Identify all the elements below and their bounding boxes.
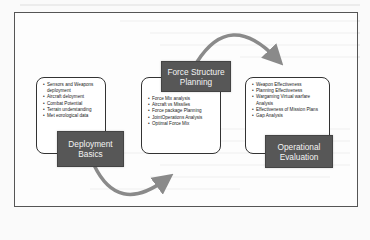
title-line: Deployment <box>68 139 112 149</box>
list-item: Met eorological data <box>43 113 101 119</box>
title-line: Operational <box>278 142 321 152</box>
title-line: Planning <box>180 77 212 87</box>
title-line: Basics <box>78 149 102 159</box>
title-line: Force Structure <box>167 67 224 77</box>
stage-items-list: Sensors and Weapons deployment Aircraft … <box>37 78 105 119</box>
list-item: Gap Analysis <box>252 113 325 119</box>
list-item: Optimal Force Mix <box>148 121 216 127</box>
title-line: Evaluation <box>280 152 319 162</box>
stage-title-force-structure-planning: Force Structure Planning <box>161 61 231 92</box>
list-item: Sensors and Weapons deployment <box>43 82 101 94</box>
stage-title-operational-evaluation: Operational Evaluation <box>265 135 333 168</box>
list-item: Wargaming Virtual warfare Analysis <box>252 94 325 106</box>
stage-title-deployment-basics: Deployment Basics <box>57 131 124 167</box>
stage-items-list: Weapon Effectiveness Planning Effectiven… <box>246 78 329 119</box>
